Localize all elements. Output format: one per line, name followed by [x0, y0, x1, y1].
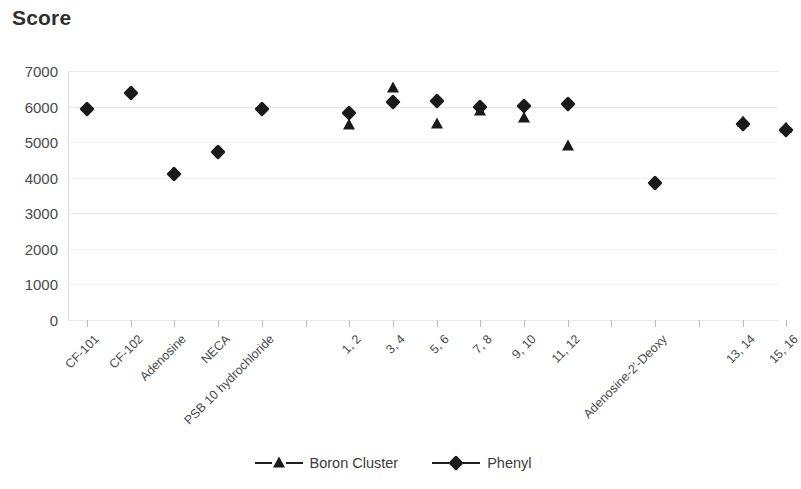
plot-area	[68, 71, 778, 321]
x-tick	[87, 320, 88, 327]
legend-line	[432, 462, 449, 464]
x-tick	[524, 320, 525, 327]
x-tick	[611, 320, 612, 327]
y-tick-label: 5000	[0, 134, 58, 151]
legend-label: Boron Cluster	[310, 455, 399, 471]
legend-line	[286, 462, 303, 464]
x-tick	[568, 320, 569, 327]
data-point	[431, 117, 443, 128]
x-tick	[699, 320, 700, 327]
gridline-6000	[68, 107, 778, 108]
x-tick	[218, 320, 219, 327]
x-tick	[174, 320, 175, 327]
y-tick-label: 1000	[0, 276, 58, 293]
x-tick	[437, 320, 438, 327]
x-tick	[743, 320, 744, 327]
gridline-3000	[68, 213, 778, 214]
x-tick	[393, 320, 394, 327]
x-tick	[786, 320, 787, 327]
legend-item[interactable]: Boron Cluster	[255, 455, 399, 471]
x-tick	[349, 320, 350, 327]
x-tick	[306, 320, 307, 327]
gridline-5000	[68, 142, 778, 143]
data-point	[387, 82, 399, 93]
x-tick	[131, 320, 132, 327]
y-tick-label: 4000	[0, 169, 58, 186]
y-tick-label: 6000	[0, 98, 58, 115]
legend-item[interactable]: Phenyl	[432, 455, 531, 471]
legend-line	[463, 462, 480, 464]
gridline-7000	[68, 71, 778, 72]
legend-line	[255, 462, 272, 464]
x-tick	[480, 320, 481, 327]
data-point	[562, 139, 574, 150]
y-tick-label: 2000	[0, 240, 58, 257]
legend-label: Phenyl	[487, 455, 531, 471]
diamond-marker-icon	[449, 456, 463, 470]
gridline-2000	[68, 249, 778, 250]
y-tick-label: 3000	[0, 205, 58, 222]
chart-legend: Boron ClusterPhenyl	[0, 455, 786, 471]
triangle-marker-icon	[272, 456, 286, 470]
y-tick-label: 0	[0, 312, 58, 329]
x-tick	[655, 320, 656, 327]
y-tick-label: 7000	[0, 63, 58, 80]
gridline-1000	[68, 284, 778, 285]
x-tick	[262, 320, 263, 327]
